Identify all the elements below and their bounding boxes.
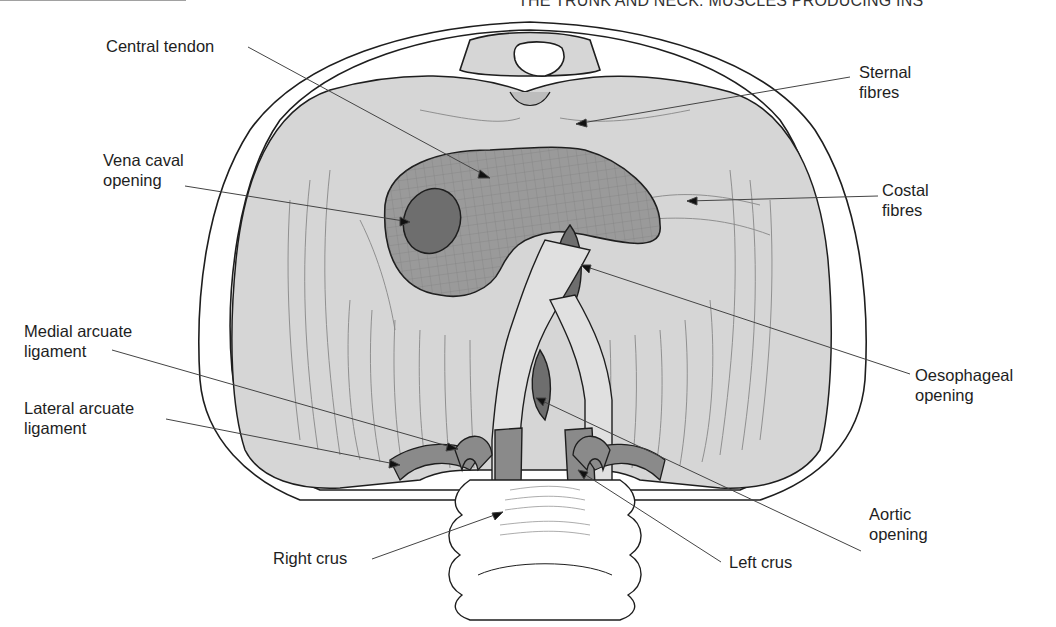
- label-central-tendon: Central tendon: [106, 36, 214, 56]
- label-medial-arcuate-ligament: Medial arcuate ligament: [24, 321, 132, 361]
- label-vena-caval-opening: Vena caval opening: [103, 150, 184, 190]
- label-sternal-fibres: Sternal fibres: [859, 62, 911, 102]
- label-oesophageal-opening: Oesophageal opening: [915, 365, 1013, 405]
- label-aortic-opening: Aortic opening: [869, 504, 928, 544]
- label-left-crus: Left crus: [729, 552, 792, 572]
- label-costal-fibres: Costal fibres: [882, 180, 929, 220]
- vertebral-column: [449, 480, 641, 620]
- label-right-crus: Right crus: [273, 548, 347, 568]
- label-lateral-arcuate-ligament: Lateral arcuate ligament: [24, 398, 134, 438]
